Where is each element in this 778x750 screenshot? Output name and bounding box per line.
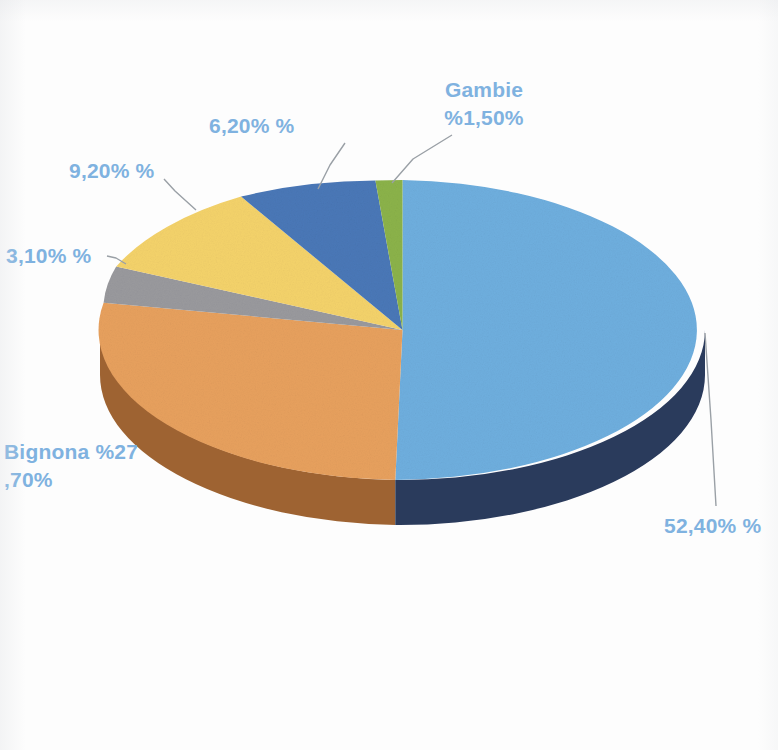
- slice-label-grey: 3,10% %: [6, 242, 156, 270]
- slice-label-lightblue: 52,40% %: [664, 512, 778, 540]
- slice-label-darkblue: 6,20% %: [209, 112, 369, 140]
- slice-label-gambie: Gambie %1,50%: [424, 76, 544, 131]
- leader-line-gambie: [392, 135, 452, 183]
- pie-chart-3d: [0, 0, 778, 750]
- leader-line-lightblue: [705, 333, 716, 506]
- slice-label-yellow: 9,20% %: [69, 157, 229, 185]
- scanned-chart-page: Gambie %1,50% 6,20% % 9,20% % 3,10% % Bi…: [0, 0, 778, 750]
- slice-label-bignona: Bignona %27 ,70%: [4, 438, 184, 493]
